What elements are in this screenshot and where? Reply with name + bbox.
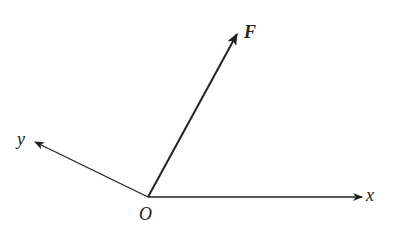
y-axis-label: y [17,130,25,148]
y-axis [35,142,148,197]
force-label: F [244,23,256,41]
force-diagram: O x y F [0,0,402,243]
x-axis-label: x [366,186,374,204]
diagram-canvas [0,0,402,243]
origin-label: O [139,205,152,223]
force-vector [148,34,237,197]
